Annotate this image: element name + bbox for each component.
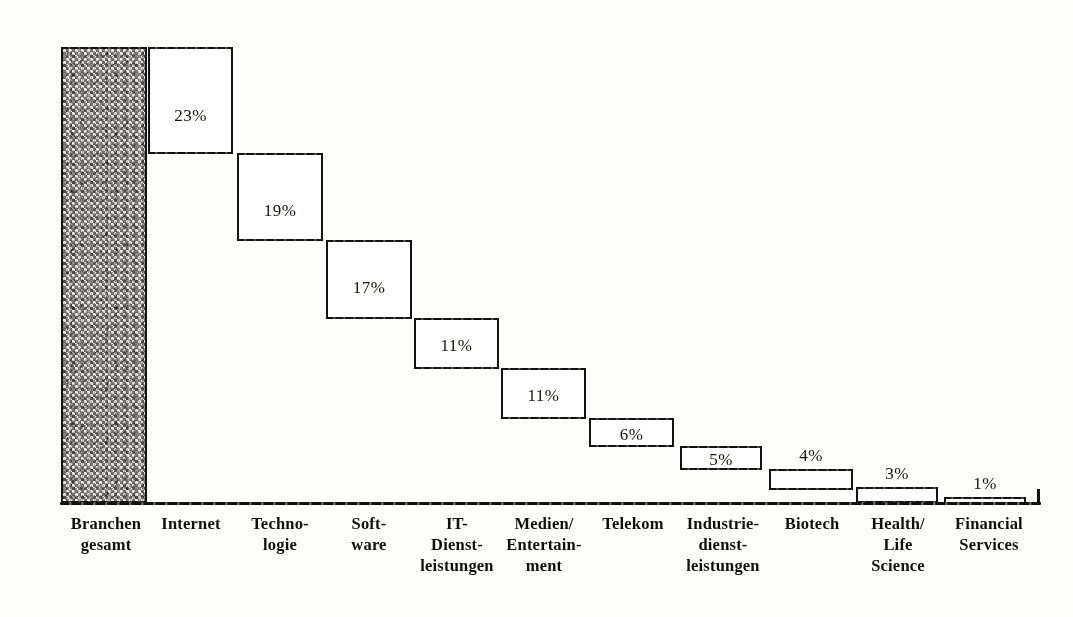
bar-internet: 23% (148, 47, 233, 154)
x-label-line: Health/ (853, 513, 943, 534)
bar-value-technologie: 19% (239, 201, 321, 221)
bar-telekom: 6% (589, 418, 674, 447)
bar-biotech: 4% (769, 469, 853, 490)
x-label-internet: Internet (146, 513, 236, 534)
x-label-line: Medien/ (493, 513, 595, 534)
bar-industriedienstleistungen: 5% (680, 446, 762, 470)
x-label-line: ment (493, 555, 595, 576)
x-label-technologie: Techno-logie (235, 513, 325, 555)
x-label-line: Financial (941, 513, 1037, 534)
x-label-line: gesamt (61, 534, 151, 555)
x-label-line: leistungen (671, 555, 775, 576)
bar-software: 17% (326, 240, 412, 319)
bar-it-dienstleistungen: 11% (414, 318, 499, 369)
bar-value-it-dienstleistungen: 11% (416, 336, 497, 356)
x-label-line: Internet (146, 513, 236, 534)
x-label-line: Biotech (768, 513, 856, 534)
x-label-line: Telekom (588, 513, 678, 534)
bar-value-biotech: 4% (771, 446, 851, 466)
bar-value-telekom: 6% (591, 425, 672, 445)
bar-value-software: 17% (328, 278, 410, 298)
bar-medien-entertainment: 11% (501, 368, 586, 419)
bar-value-financial-services: 1% (946, 474, 1024, 494)
bar-value-internet: 23% (150, 106, 231, 126)
x-label-industriedienstleistungen: Industrie-dienst-leistungen (671, 513, 775, 576)
x-label-line: Soft- (324, 513, 414, 534)
x-axis-right-tick (1037, 489, 1040, 504)
x-label-biotech: Biotech (768, 513, 856, 534)
x-label-line: logie (235, 534, 325, 555)
bar-value-industriedienstleistungen: 5% (682, 450, 760, 470)
bar-technologie: 19% (237, 153, 323, 241)
x-label-line: Science (853, 555, 943, 576)
x-label-line: ware (324, 534, 414, 555)
x-axis-label-group: BranchengesamtInternetTechno-logieSoft-w… (0, 513, 1073, 608)
x-label-line: dienst- (671, 534, 775, 555)
x-axis-baseline (60, 502, 1041, 505)
x-label-line: Branchen (61, 513, 151, 534)
chart-root: 23%19%17%11%11%6%5%4%3%1% Branchengesamt… (0, 0, 1073, 617)
x-label-health-life-science: Health/LifeScience (853, 513, 943, 576)
x-label-financial-services: FinancialServices (941, 513, 1037, 555)
x-label-line: Industrie- (671, 513, 775, 534)
x-label-line: Services (941, 534, 1037, 555)
x-label-software: Soft-ware (324, 513, 414, 555)
bar-value-medien-entertainment: 11% (503, 386, 584, 406)
x-label-line: Life (853, 534, 943, 555)
x-label-line: Entertain- (493, 534, 595, 555)
x-label-telekom: Telekom (588, 513, 678, 534)
x-label-line: Techno- (235, 513, 325, 534)
bar-health-life-science: 3% (856, 487, 938, 503)
bar-value-health-life-science: 3% (858, 464, 936, 484)
bar-branchen-gesamt (61, 47, 147, 503)
x-label-branchen-gesamt: Branchengesamt (61, 513, 151, 555)
x-label-medien-entertainment: Medien/Entertain-ment (493, 513, 595, 576)
plot-area: 23%19%17%11%11%6%5%4%3%1% (0, 0, 1073, 510)
